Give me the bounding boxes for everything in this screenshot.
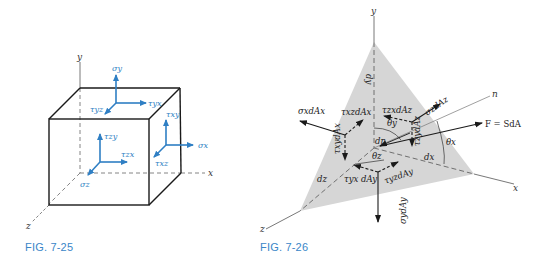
right-face-stresses <box>154 120 193 157</box>
label-theta-x: θx <box>446 137 456 147</box>
label-sigma-y-dAy: σydAy <box>398 197 408 224</box>
label-theta-z: θz <box>372 151 382 161</box>
label-tau-xz-dAx: τxzdAx <box>341 107 372 117</box>
label-sigma-x-dAx: σxdAx <box>298 106 325 116</box>
label-tau-zy: τzy <box>104 132 118 141</box>
fig26-z-label: z <box>259 224 265 234</box>
label-tau-zy-dAz: τzydAz <box>412 115 422 146</box>
fig25-z-label: z <box>25 221 31 231</box>
label-theta-y: θy <box>387 118 397 128</box>
fig26-y-label: y <box>370 6 377 16</box>
figure-7-26: y x z n dy dx dz dn F = SdA σxdAx τxzdAx… <box>259 6 522 234</box>
label-tau-zx: τzx <box>121 150 135 159</box>
figure-caption-7-26: FIG. 7-26 <box>260 241 308 253</box>
label-sigma-z-dAz: σzdAz <box>423 94 451 118</box>
figure-caption-7-25: FIG. 7-25 <box>25 241 73 253</box>
fig25-y-label: y <box>76 52 83 62</box>
label-tau-xz: τxz <box>155 159 169 168</box>
label-tau-yx-dAy: τyx dAy <box>344 174 377 184</box>
label-tau-zx-dAz: τzxdAz <box>382 105 413 115</box>
z-axis <box>266 211 300 229</box>
label-dz: dz <box>317 174 327 184</box>
label-tau-yx: τyx <box>148 99 162 108</box>
label-sigma-y: σy <box>112 64 122 73</box>
x-axis <box>474 174 514 184</box>
fig26-n-label: n <box>492 89 498 99</box>
label-dx: dx <box>424 152 434 162</box>
label-tau-xy-dAx: τxydAx <box>332 123 342 154</box>
z-axis <box>32 205 49 222</box>
figure-7-25: y x z σy τyx τyz τzy τzx σz τxy σx τxz <box>25 52 213 231</box>
label-dn: dn <box>375 136 386 146</box>
stress-diagrams: y x z σy τyx τyz τzy τzx σz τxy σx τxz <box>0 0 548 261</box>
label-sigma-x: σx <box>198 141 208 150</box>
label-tau-yz: τyz <box>90 105 104 114</box>
label-sigma-z: σz <box>80 180 90 189</box>
label-dy: dy <box>364 74 374 84</box>
fig26-x-label: x <box>513 183 518 193</box>
label-force: F = SdA <box>485 119 522 129</box>
z-axis-hidden <box>49 173 80 204</box>
top-face-stresses <box>105 75 146 114</box>
fig25-x-label: x <box>208 168 213 178</box>
label-tau-xy: τxy <box>166 110 180 119</box>
